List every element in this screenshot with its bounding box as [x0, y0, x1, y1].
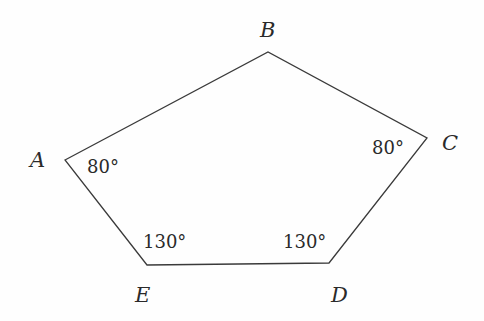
angle-label-a: 80°: [87, 156, 119, 177]
pentagon-abcde: [65, 52, 427, 265]
vertex-label-b: B: [259, 18, 275, 42]
vertex-label-d: D: [330, 283, 348, 307]
angle-label-d: 130°: [283, 231, 326, 252]
diagram-svg: A B C D E 80° 80° 130° 130°: [0, 0, 484, 321]
vertex-label-c: C: [442, 131, 458, 155]
angle-label-c: 80°: [372, 137, 404, 158]
vertex-label-a: A: [28, 148, 45, 172]
vertex-label-e: E: [134, 283, 150, 307]
angle-label-e: 130°: [143, 231, 186, 252]
pentagon-diagram: A B C D E 80° 80° 130° 130°: [0, 0, 484, 321]
